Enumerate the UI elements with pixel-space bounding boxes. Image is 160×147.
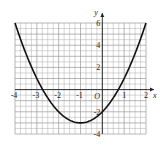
y-tick-label: 2 xyxy=(96,63,100,72)
x-tick-label: 2 xyxy=(144,91,148,100)
grid xyxy=(15,23,146,134)
y-tick-label: 4 xyxy=(96,41,100,50)
y-axis-label: y xyxy=(93,8,98,17)
x-tick-label: 1 xyxy=(122,91,126,100)
axes xyxy=(15,13,154,134)
x-tick-label: -1 xyxy=(76,91,83,100)
x-tick-label: -4 xyxy=(11,91,18,100)
origin-label: O xyxy=(94,92,100,101)
parabola-graph: -4-3-2-112-4-2246 x y O xyxy=(0,0,160,147)
x-tick-label: -3 xyxy=(32,91,39,100)
y-tick-label: -4 xyxy=(94,130,101,139)
x-tick-label: -2 xyxy=(54,91,61,100)
y-tick-label: 6 xyxy=(96,19,100,28)
x-axis-label: x xyxy=(152,91,157,100)
